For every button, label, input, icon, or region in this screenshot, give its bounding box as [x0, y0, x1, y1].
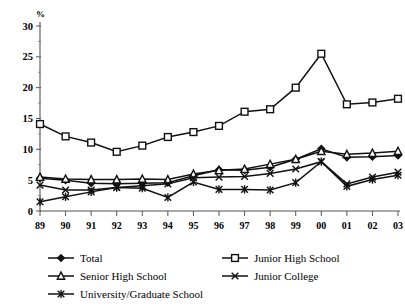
- data-point: [113, 148, 120, 155]
- data-point: [292, 84, 299, 91]
- legend-marker-open-square: [232, 255, 239, 262]
- y-tick-label: 25: [23, 51, 34, 62]
- data-point: [292, 155, 299, 162]
- data-point: [190, 129, 197, 136]
- y-tick-label: 20: [23, 82, 34, 93]
- legend-item-junior-high-school[interactable]: Junior High School: [222, 252, 340, 264]
- data-point: [190, 170, 197, 177]
- y-tick-label: 10: [23, 144, 34, 155]
- legend-label: Junior High School: [254, 252, 340, 264]
- chart-container: 051015202530 899091929394959697989900010…: [0, 0, 405, 306]
- legend-item-university-graduate-school[interactable]: University/Graduate School: [48, 288, 203, 300]
- y-tick-label: 30: [23, 21, 34, 32]
- legend-label: University/Graduate School: [80, 288, 203, 300]
- x-tick-label: 00: [316, 220, 326, 231]
- x-tick-label: 97: [240, 220, 250, 231]
- x-tick-label: 94: [163, 220, 173, 231]
- legend-label: Senior High School: [80, 270, 167, 282]
- y-tick-label: 15: [23, 113, 34, 124]
- line-chart: 051015202530 899091929394959697989900010…: [0, 0, 405, 306]
- legend-label: Junior College: [254, 270, 319, 282]
- legend-marker-open-triangle: [57, 272, 64, 279]
- data-point: [267, 106, 274, 113]
- data-point: [369, 149, 376, 156]
- data-point: [164, 134, 171, 141]
- data-point: [88, 139, 95, 146]
- x-tick-label: 01: [342, 220, 352, 231]
- data-point: [113, 176, 120, 183]
- legend-label: Total: [80, 252, 102, 264]
- data-point: [87, 176, 94, 183]
- data-point: [318, 50, 325, 57]
- x-tick-label: 93: [137, 220, 147, 231]
- data-point: [139, 142, 146, 149]
- data-point: [395, 95, 402, 102]
- data-point: [139, 175, 146, 182]
- x-tick-label: 99: [291, 220, 301, 231]
- data-point: [394, 147, 401, 154]
- data-point: [241, 108, 248, 115]
- y-tick-label: 0: [28, 206, 33, 217]
- x-tick-label: 91: [86, 220, 96, 231]
- chart-legend: TotalJunior High SchoolSenior High Schoo…: [48, 252, 340, 300]
- plot-area: [36, 50, 401, 206]
- x-tick-label: 96: [214, 220, 224, 231]
- data-point: [165, 193, 172, 201]
- x-tick-label: 02: [367, 220, 377, 231]
- y-tick-label: 5: [28, 175, 33, 186]
- x-tick-label: 90: [61, 220, 71, 231]
- y-axis-unit-label: %: [36, 9, 45, 19]
- data-point: [216, 123, 223, 130]
- data-point: [369, 99, 376, 106]
- legend-marker-filled-diamond: [58, 255, 65, 262]
- data-point: [62, 175, 69, 182]
- data-point: [36, 173, 43, 180]
- series-junior-high-school: [37, 50, 402, 155]
- x-tick-label: 92: [112, 220, 122, 231]
- data-point: [62, 133, 69, 140]
- data-point: [241, 165, 248, 172]
- x-tick-label: 95: [188, 220, 198, 231]
- data-point: [343, 150, 350, 157]
- data-point: [37, 121, 44, 128]
- x-axis: 899091929394959697989900010203: [35, 211, 403, 231]
- legend-item-senior-high-school[interactable]: Senior High School: [48, 270, 167, 282]
- x-tick-label: 03: [393, 220, 403, 231]
- legend-item-junior-college[interactable]: Junior College: [222, 270, 319, 282]
- legend-item-total[interactable]: Total: [48, 252, 102, 264]
- x-tick-label: 89: [35, 220, 45, 231]
- data-point: [343, 101, 350, 108]
- x-tick-label: 98: [265, 220, 275, 231]
- data-point: [215, 166, 222, 173]
- data-point: [266, 160, 273, 167]
